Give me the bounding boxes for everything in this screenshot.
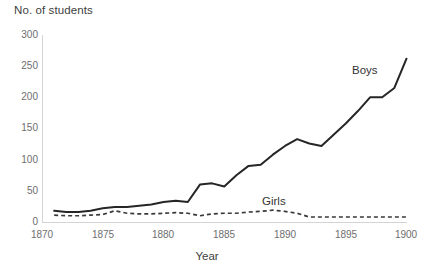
girls-series-line bbox=[54, 210, 406, 217]
x-axis-title: Year bbox=[0, 250, 438, 262]
boys-series-label: Boys bbox=[352, 64, 378, 76]
girls-series-label: Girls bbox=[262, 195, 286, 207]
line-chart: No. of students 300 250 200 150 100 50 0… bbox=[0, 0, 438, 279]
boys-series-line bbox=[54, 59, 406, 212]
plot-area bbox=[0, 0, 438, 279]
x-axis-title-text: Year bbox=[195, 250, 218, 262]
